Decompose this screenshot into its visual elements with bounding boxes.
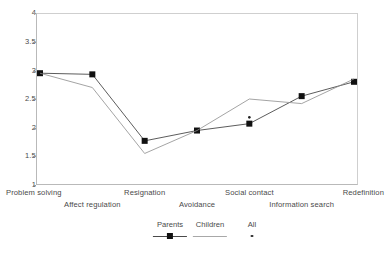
legend-key-small-dot: [248, 231, 256, 241]
y-tick-label: 3.5: [6, 38, 36, 46]
legend-key-filled-square-with-line: [157, 231, 183, 241]
x-axis-label: Redefinition: [343, 188, 384, 197]
legend-label: Children: [196, 220, 224, 229]
legend-item-all[interactable]: All: [248, 220, 256, 241]
y-tick-label: 1.5: [6, 152, 36, 160]
x-axis-label: Avoidance: [179, 200, 215, 209]
legend-key-plain-line: [196, 231, 224, 241]
legend-dot-marker: [251, 235, 254, 238]
x-axis-label: Resignation: [124, 188, 165, 197]
x-axis-label: Affect regulation: [64, 200, 120, 209]
y-axis: 4 3.5 3 2.5 2 1.5 1: [0, 0, 36, 186]
legend-item-children[interactable]: Children: [196, 220, 224, 241]
figure: 4 3.5 3 2.5 2 1.5 1 Problem solvingAffec…: [0, 0, 386, 258]
chart-legend: ParentsChildrenAll: [0, 220, 386, 242]
x-axis-label: Information search: [269, 200, 334, 209]
x-axis-label: Problem solving: [6, 188, 62, 197]
legend-line: [193, 236, 227, 237]
y-tick-label: 4: [6, 9, 36, 17]
legend-label: All: [248, 220, 256, 229]
x-axis-label: Social contact: [225, 188, 274, 197]
y-tick-label: 2: [6, 124, 36, 132]
plot-area: [36, 13, 358, 185]
y-tick-label: 3: [6, 67, 36, 75]
x-axis-labels: Problem solvingAffect regulationResignat…: [0, 186, 386, 216]
legend-square-marker: [167, 233, 173, 239]
legend-label: Parents: [157, 220, 183, 229]
legend-item-parents[interactable]: Parents: [157, 220, 183, 241]
y-tick-label: 2.5: [6, 95, 36, 103]
